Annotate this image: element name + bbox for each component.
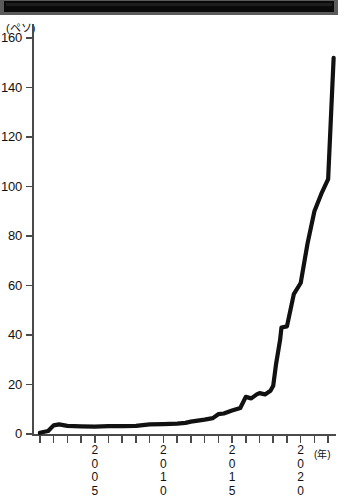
data-series-line <box>40 58 334 433</box>
x-axis-unit-label: (年) <box>314 446 331 461</box>
